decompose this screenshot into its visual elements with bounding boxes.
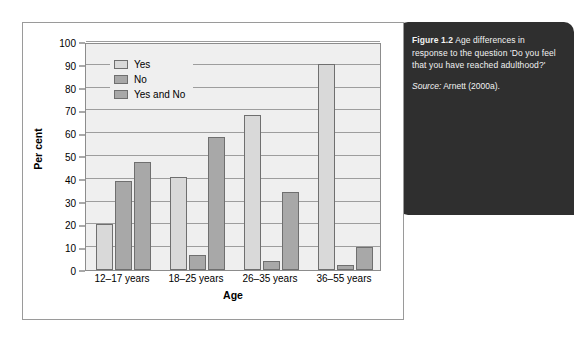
chart-legend: YesNoYes and No (110, 54, 193, 106)
figure-source-line: Source: Arnett (2000a). (412, 80, 560, 92)
bar (208, 137, 225, 270)
y-axis-tick: 30 (54, 197, 85, 208)
y-axis-tick: 70 (54, 106, 85, 117)
legend-label: No (134, 74, 147, 85)
x-axis-tick-label: 26–35 years (242, 273, 297, 284)
y-axis-tick: 100 (54, 38, 85, 49)
x-axis-tick-label: 18–25 years (168, 273, 223, 284)
x-axis: 12–17 years18–25 years26–35 years36–55 y… (85, 273, 381, 289)
bar (134, 162, 151, 270)
bar (96, 224, 113, 270)
figure-caption-panel: Figure 1.2 Age differences in response t… (398, 22, 574, 215)
legend-label: Yes (134, 59, 150, 70)
y-axis-tick: 90 (54, 60, 85, 71)
y-axis-tick-label: 100 (54, 38, 76, 49)
bar-group (234, 44, 308, 270)
bar (115, 181, 132, 270)
x-axis-tick-label: 36–55 years (316, 273, 371, 284)
x-axis-tick-label: 12–17 years (94, 273, 149, 284)
legend-label: Yes and No (134, 89, 185, 100)
y-axis-tick: 80 (54, 83, 85, 94)
y-axis-tick-label: 60 (54, 129, 76, 140)
gridline (86, 41, 380, 42)
bar (170, 177, 187, 270)
y-axis-tick-label: 20 (54, 220, 76, 231)
bar-group (308, 44, 382, 270)
y-axis-tick-label: 90 (54, 60, 76, 71)
y-axis-tick-label: 70 (54, 106, 76, 117)
y-axis-tick: 10 (54, 243, 85, 254)
y-axis-tick: 60 (54, 129, 85, 140)
y-axis: 0102030405060708090100 (45, 43, 85, 271)
caption-text-block: Figure 1.2 Age differences in response t… (412, 34, 560, 72)
y-axis-tick: 20 (54, 220, 85, 231)
chart-card: Per cent 0102030405060708090100 YesNoYes… (22, 22, 404, 320)
y-axis-tick-label: 80 (54, 83, 76, 94)
y-axis-tick-label: 10 (54, 243, 76, 254)
legend-item: Yes and No (114, 87, 185, 102)
legend-item: No (114, 72, 185, 87)
source-text: Arnett (2000a). (443, 81, 500, 91)
bar (337, 265, 354, 270)
y-axis-tick-label: 0 (54, 266, 76, 277)
bar (282, 192, 299, 270)
y-axis-tick-label: 40 (54, 174, 76, 185)
source-label: Source: (412, 81, 441, 91)
y-axis-title: Per cent (32, 128, 44, 169)
y-axis-tick: 50 (54, 152, 85, 163)
legend-swatch (114, 60, 128, 69)
y-axis-tick-label: 30 (54, 197, 76, 208)
legend-item: Yes (114, 57, 185, 72)
figure-page: Figure 1.2 Age differences in response t… (0, 0, 574, 342)
legend-swatch (114, 75, 128, 84)
x-axis-title: Age (85, 289, 381, 301)
legend-swatch (114, 90, 128, 99)
plot-area: YesNoYes and No (85, 43, 381, 271)
y-axis-tick: 40 (54, 174, 85, 185)
y-axis-tick: 0 (54, 266, 85, 277)
bar (263, 261, 280, 270)
bar (318, 64, 335, 270)
bar (244, 115, 261, 270)
figure-number-label: Figure 1.2 (412, 35, 453, 45)
y-axis-tick-label: 50 (54, 152, 76, 163)
bar (189, 255, 206, 270)
bar (356, 247, 373, 270)
y-axis-tick-mark (79, 271, 85, 272)
